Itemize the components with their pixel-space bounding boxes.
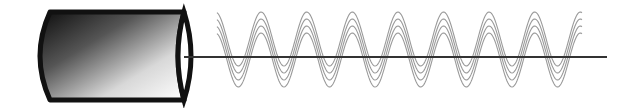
diagram-canvas: Cylinder emitting polarized sine waves a… (0, 0, 634, 108)
sine-waves (217, 12, 582, 87)
cylinder (40, 12, 191, 100)
